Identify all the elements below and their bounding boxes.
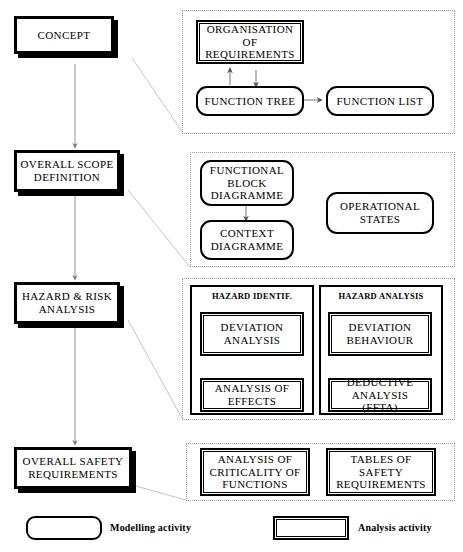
stage-hazard-risk-analysis[interactable]: HAZARD & RISK ANALYSIS xyxy=(14,282,120,324)
activity-context-diagramme[interactable]: CONTEXT DIAGRAMME xyxy=(200,220,294,260)
activity-function-list-label: FUNCTION LIST xyxy=(337,95,424,108)
subgroup-hazard-identif-title: HAZARD IDENTIF. xyxy=(192,291,312,301)
activity-deductive-analysis-ffta[interactable]: DEDUCTIVE ANALYSIS (FFTA) xyxy=(328,378,432,412)
activity-analysis-of-effects-label: ANALYSIS OF EFFECTS xyxy=(206,382,298,408)
legend-modelling-label: Modelling activity xyxy=(110,522,191,533)
activity-functional-block-diagramme-label: FUNCTIONAL BLOCK DIAGRAMME xyxy=(206,164,288,203)
stage-overall-safety-requirements-label: OVERALL SAFETY REQUIREMENTS xyxy=(20,455,126,481)
activity-organisation-of-requirements[interactable]: ORGANISATION OF REQUIREMENTS xyxy=(196,20,304,64)
stage-overall-scope-definition[interactable]: OVERALL SCOPE DEFINITION xyxy=(14,150,120,192)
activity-deviation-analysis[interactable]: DEVIATION ANALYSIS xyxy=(200,312,304,356)
activity-deviation-behaviour[interactable]: DEVIATION BEHAVIOUR xyxy=(328,312,432,356)
activity-functional-block-diagramme[interactable]: FUNCTIONAL BLOCK DIAGRAMME xyxy=(200,160,294,206)
activity-analysis-of-effects[interactable]: ANALYSIS OF EFFECTS xyxy=(200,378,304,412)
legend-analysis-swatch xyxy=(273,516,349,540)
process-diagram: CONCEPT OVERALL SCOPE DEFINITION HAZARD … xyxy=(0,0,463,552)
activity-deviation-analysis-label: DEVIATION ANALYSIS xyxy=(206,321,298,347)
activity-analysis-of-criticality-of-functions[interactable]: ANALYSIS OF CRITICALITY OF FUNCTIONS xyxy=(200,448,310,496)
activity-analysis-of-criticality-of-functions-label: ANALYSIS OF CRITICALITY OF FUNCTIONS xyxy=(206,453,304,492)
activity-tables-of-safety-requirements[interactable]: TABLES OF SAFETY REQUIREMENTS xyxy=(326,448,436,496)
activity-deductive-analysis-ffta-label: DEDUCTIVE ANALYSIS (FFTA) xyxy=(334,376,426,415)
subgroup-hazard-analysis-title: HAZARD ANALYSIS xyxy=(321,291,441,301)
activity-function-tree[interactable]: FUNCTION TREE xyxy=(196,86,304,116)
stage-concept-label: CONCEPT xyxy=(38,29,91,42)
stage-overall-scope-definition-label: OVERALL SCOPE DEFINITION xyxy=(20,158,114,184)
activity-function-list[interactable]: FUNCTION LIST xyxy=(326,86,434,116)
activity-operational-states-label: OPERATIONAL STATES xyxy=(332,200,428,226)
activity-tables-of-safety-requirements-label: TABLES OF SAFETY REQUIREMENTS xyxy=(332,453,430,492)
stage-overall-safety-requirements[interactable]: OVERALL SAFETY REQUIREMENTS xyxy=(14,447,132,489)
activity-context-diagramme-label: CONTEXT DIAGRAMME xyxy=(206,227,288,253)
activity-operational-states[interactable]: OPERATIONAL STATES xyxy=(326,192,434,234)
legend-analysis-label: Analysis activity xyxy=(358,522,432,533)
legend-modelling-swatch xyxy=(26,516,102,540)
activity-function-tree-label: FUNCTION TREE xyxy=(205,95,296,108)
activity-deviation-behaviour-label: DEVIATION BEHAVIOUR xyxy=(334,321,426,347)
stage-concept[interactable]: CONCEPT xyxy=(14,16,114,54)
activity-organisation-of-requirements-label: ORGANISATION OF REQUIREMENTS xyxy=(202,23,298,62)
stage-hazard-risk-analysis-label: HAZARD & RISK ANALYSIS xyxy=(20,290,114,316)
